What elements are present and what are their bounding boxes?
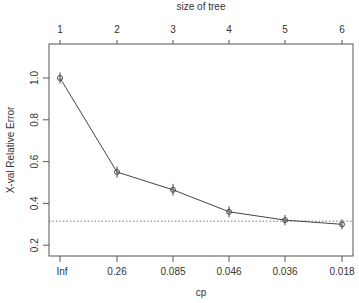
- cp-plot: size of tree 123456 0.20.40.60.81.0 X-va…: [0, 0, 359, 303]
- y-tick-label: 0.2: [29, 238, 40, 252]
- plot-frame: [49, 44, 353, 256]
- x-axis: Inf0.260.0850.0460.0360.018: [56, 256, 355, 277]
- top-tick-label: 4: [226, 24, 232, 35]
- y-tick-label: 0.6: [29, 154, 40, 168]
- y-axis-label: X-val Relative Error: [5, 106, 16, 193]
- x-axis-label: cp: [196, 287, 207, 298]
- y-axis: 0.20.40.60.81.0: [29, 71, 49, 253]
- x-tick-label: 0.085: [160, 266, 185, 277]
- top-tick-label: 6: [339, 24, 345, 35]
- y-tick-label: 1.0: [29, 71, 40, 85]
- x-tick-label: Inf: [56, 266, 67, 277]
- y-tick-label: 0.8: [29, 112, 40, 126]
- x-tick-label: 0.018: [329, 266, 354, 277]
- top-tick-label: 2: [114, 24, 120, 35]
- data-points: [58, 72, 345, 229]
- top-tick-label: 3: [170, 24, 176, 35]
- y-tick-label: 0.4: [29, 196, 40, 210]
- x-tick-label: 0.26: [107, 266, 127, 277]
- series-line: [60, 78, 342, 224]
- top-axis-label: size of tree: [177, 1, 226, 12]
- top-tick-label: 5: [282, 24, 288, 35]
- x-tick-label: 0.046: [216, 266, 241, 277]
- x-tick-label: 0.036: [272, 266, 297, 277]
- top-axis: 123456: [57, 24, 345, 44]
- top-tick-label: 1: [57, 24, 63, 35]
